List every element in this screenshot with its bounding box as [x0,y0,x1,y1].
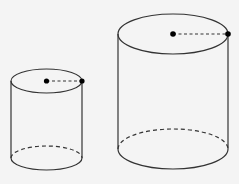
large-rim-point [225,31,231,37]
small-rim-point [79,78,84,83]
small-center-point [44,78,49,83]
large-center-point [170,31,176,37]
cylinders-diagram [0,0,239,184]
